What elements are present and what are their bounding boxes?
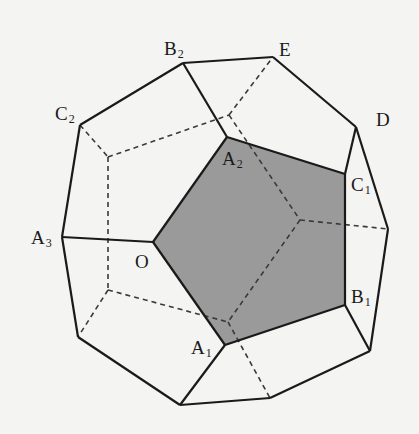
dodecahedron-diagram: B2EDC2A2C1A3OB1A1 bbox=[0, 0, 419, 434]
vertex-label-O: O bbox=[135, 251, 149, 272]
vertex-label-D: D bbox=[376, 109, 390, 130]
vertex-label-E: E bbox=[279, 39, 291, 60]
